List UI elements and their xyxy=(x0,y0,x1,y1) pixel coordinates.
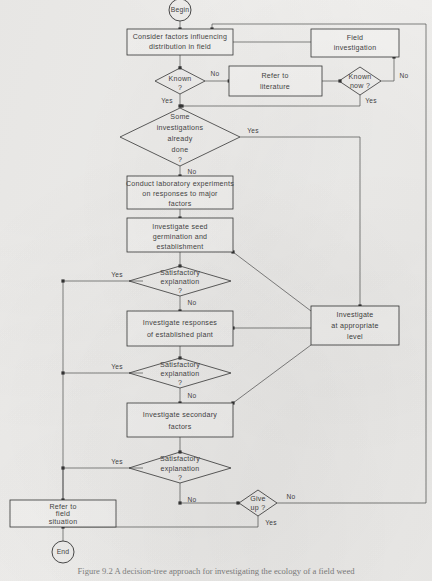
decision-give-up: Give up ? xyxy=(239,490,277,516)
decision-some-line3: already xyxy=(167,135,192,143)
process-investigate-seed-line3: establishment xyxy=(156,243,203,251)
figure-caption: Figure 9.2 A decision-tree approach for … xyxy=(0,566,432,576)
decision-give-up-line2: up ? xyxy=(251,504,266,512)
edge-label-sat1-yes: Yes xyxy=(111,271,123,278)
process-investigate-level-line3: level xyxy=(347,333,363,341)
process-investigate-seed-line2: germination and xyxy=(153,233,208,241)
decision-satisfactory-1: Satisfactory explanation ? xyxy=(129,266,231,296)
edge-label-known-yes: Yes xyxy=(161,97,173,104)
decision-known: Known ? xyxy=(155,68,205,94)
figure-page: Begin Consider factors influencing distr… xyxy=(0,0,432,581)
process-conduct-lab: Conduct laboratory experiments on respon… xyxy=(126,176,234,209)
process-investigate-secondary-line1: Investigate secondary xyxy=(143,411,217,419)
process-field-investigation-line1: Field xyxy=(347,34,364,42)
decision-sat1-line3: ? xyxy=(178,287,182,295)
process-consider-factors: Consider factors influencing distributio… xyxy=(127,29,233,55)
flowchart-svg: Begin Consider factors influencing distr… xyxy=(0,0,432,581)
decision-sat1-line2: explanation xyxy=(160,278,199,286)
edge-label-sat1-no: No xyxy=(188,299,197,306)
process-refer-field-line2: field xyxy=(56,510,70,518)
process-refer-literature: Refer to literature xyxy=(229,66,322,96)
edge-label-sat2-yes: Yes xyxy=(111,363,123,370)
decision-satisfactory-2: Satisfactory explanation ? xyxy=(129,358,231,388)
decision-known-line1: Known xyxy=(169,75,192,83)
edge-label-known-now-no: No xyxy=(400,72,409,79)
decision-known-now: Known now ? xyxy=(339,67,381,95)
edge-label-known-now-yes: Yes xyxy=(365,97,377,104)
process-refer-field-line3: situation xyxy=(49,518,78,526)
edge-label-sat3-yes: Yes xyxy=(111,458,123,465)
decision-satisfactory-3: Satisfactory explanation ? xyxy=(129,452,231,483)
decision-sat3-line2: explanation xyxy=(160,465,199,473)
edge-label-some-no: No xyxy=(188,168,197,175)
process-investigate-level-line2: at appropriate xyxy=(331,322,378,330)
process-investigate-seed-line1: Investigate seed xyxy=(152,223,208,231)
decision-some-line2: investigations xyxy=(157,124,204,132)
process-investigate-level: Investigate at appropriate level xyxy=(311,306,399,345)
process-field-investigation-line2: investigation xyxy=(334,44,377,52)
process-investigate-secondary-line2: factors xyxy=(168,423,191,431)
process-conduct-lab-line3: factors xyxy=(168,200,191,208)
process-conduct-lab-line1: Conduct laboratory experiments xyxy=(126,180,234,188)
terminator-end: End xyxy=(52,541,74,563)
process-investigate-seed: Investigate seed germination and establi… xyxy=(127,218,233,252)
decision-known-now-line2: now ? xyxy=(350,82,370,90)
edge-label-give-up-no: No xyxy=(287,493,296,500)
process-conduct-lab-line2: on responses to major xyxy=(142,190,218,198)
process-refer-literature-line1: Refer to xyxy=(261,72,288,80)
edge-label-sat2-no: No xyxy=(188,392,197,399)
process-investigate-established-line1: Investigate responses xyxy=(143,319,217,327)
process-consider-factors-line2: distribution in field xyxy=(149,43,211,51)
process-investigate-secondary: Investigate secondary factors xyxy=(127,403,233,437)
process-refer-field: Refer to field situation xyxy=(10,500,116,527)
edge-label-give-up-yes: Yes xyxy=(265,519,277,526)
decision-give-up-line1: Give xyxy=(250,495,266,503)
process-investigate-level-line1: Investigate xyxy=(336,311,373,319)
edge-label-some-yes: Yes xyxy=(247,127,259,134)
decision-sat2-line3: ? xyxy=(178,379,182,387)
decision-some-line1: Some xyxy=(170,113,190,121)
terminator-begin-label: Begin xyxy=(171,6,189,14)
process-investigate-established-line2: of established plant xyxy=(147,331,213,339)
process-consider-factors-line1: Consider factors influencing xyxy=(133,33,228,41)
process-refer-literature-line2: literature xyxy=(260,83,290,91)
edge-label-known-no: No xyxy=(211,70,220,77)
decision-sat3-line3: ? xyxy=(178,474,182,482)
terminator-begin: Begin xyxy=(169,0,191,21)
decision-known-now-line1: Known xyxy=(349,73,372,81)
decision-some-investigations: Some investigations already done ? xyxy=(120,108,240,166)
decision-known-line2: ? xyxy=(178,84,182,92)
terminator-end-label: End xyxy=(57,548,70,555)
decision-sat2-line2: explanation xyxy=(160,370,199,378)
decision-sat2-line1: Satisfactory xyxy=(160,361,200,369)
edge-label-sat3-no: No xyxy=(188,496,197,503)
edge-labels: No Yes No Yes Yes No Yes No Yes No Yes N… xyxy=(111,70,408,526)
decision-sat1-line1: Satisfactory xyxy=(160,269,200,277)
process-field-investigation: Field investigation xyxy=(311,29,399,57)
decision-sat3-line1: Satisfactory xyxy=(160,455,200,463)
decision-some-line4: done xyxy=(172,146,189,154)
process-investigate-established: Investigate responses of established pla… xyxy=(127,311,233,346)
connector-junction-dots xyxy=(61,27,395,528)
decision-some-line5: ? xyxy=(178,156,182,164)
